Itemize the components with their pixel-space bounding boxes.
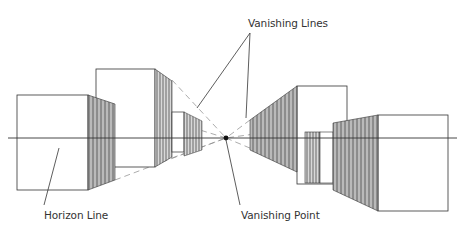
horizon-line-label: Horizon Line bbox=[44, 209, 108, 221]
vanishing-point-label: Vanishing Point bbox=[241, 209, 320, 221]
right-front-box bbox=[333, 115, 448, 211]
vanishing-lines-label: Vanishing Lines bbox=[248, 17, 328, 29]
perspective-diagram: Vanishing Lines Horizon Line Vanishing P… bbox=[0, 0, 469, 236]
right-small-box bbox=[305, 132, 333, 183]
left-small-box bbox=[172, 112, 202, 156]
vanishing-point-dot bbox=[224, 136, 229, 141]
left-front-box bbox=[17, 95, 115, 190]
